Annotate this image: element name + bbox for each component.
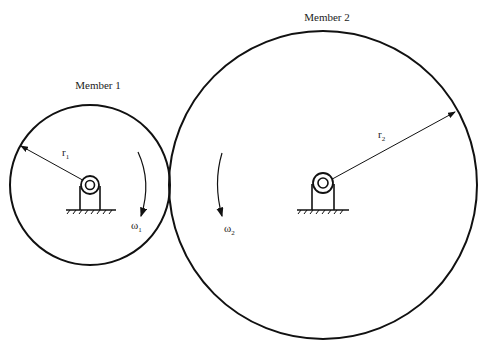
member-1-title: Member 1 [75,79,121,91]
member-1: Member 1 r1 ω1 [10,79,170,265]
radius-1-label: r1 [62,146,70,161]
friction-wheels-diagram: Member 1 r1 ω1 Member 2 r2 ω2 [0,0,479,349]
radius-2-arrow [325,112,455,183]
radius-1-arrow [21,146,88,183]
omega-2-arrow [218,153,223,216]
omega-1-arrow [138,152,146,216]
member-2: Member 2 r2 ω2 [169,11,477,339]
pivot-support-2-icon [297,173,349,214]
omega-2-label: ω2 [224,222,235,237]
pivot-support-1-icon [66,176,116,214]
omega-1-label: ω1 [131,219,142,234]
radius-2-label: r2 [378,128,386,143]
member-2-title: Member 2 [304,11,350,23]
